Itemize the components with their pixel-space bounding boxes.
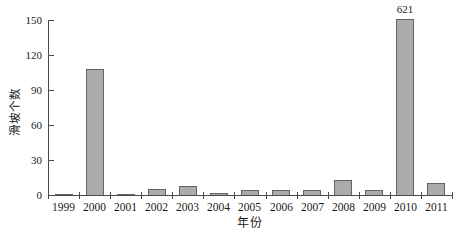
x-tick-mark xyxy=(141,192,142,199)
bar xyxy=(365,190,383,195)
y-tick-mark xyxy=(49,160,54,161)
x-tick-mark xyxy=(48,192,49,199)
x-tick-mark xyxy=(266,192,267,199)
y-tick-mark xyxy=(49,90,54,91)
bar xyxy=(427,183,445,195)
bar-value-label: 621 xyxy=(385,3,425,15)
x-tick-mark xyxy=(110,192,111,199)
x-tick-mark xyxy=(359,192,360,199)
x-tick-mark xyxy=(452,192,453,199)
y-tick-mark xyxy=(49,125,54,126)
y-tick-label: 150 xyxy=(2,13,42,27)
x-tick-mark xyxy=(234,192,235,199)
x-tick-mark xyxy=(203,192,204,199)
x-axis-title: 年份 xyxy=(200,213,300,231)
x-tick-mark xyxy=(172,192,173,199)
bar xyxy=(55,194,73,196)
x-tick-mark xyxy=(297,192,298,199)
bar xyxy=(86,69,104,195)
x-tick-mark xyxy=(79,192,80,199)
y-tick-label: 120 xyxy=(2,48,42,62)
bar xyxy=(179,186,197,195)
bar xyxy=(148,189,166,195)
x-tick-mark xyxy=(390,192,391,199)
bar-chart: 滑坡个数 年份 03060901201501999200020012002200… xyxy=(0,0,458,242)
y-tick-label: 90 xyxy=(2,83,42,97)
y-tick-label: 0 xyxy=(2,188,42,202)
x-tick-label: 2011 xyxy=(417,201,456,214)
bar xyxy=(241,190,259,195)
bar xyxy=(210,193,228,195)
y-tick-mark xyxy=(49,20,54,21)
x-tick-mark xyxy=(328,192,329,199)
bar xyxy=(272,190,290,195)
y-tick-mark xyxy=(49,55,54,56)
x-tick-mark xyxy=(421,192,422,199)
bar xyxy=(117,194,135,196)
y-tick-label: 30 xyxy=(2,153,42,167)
y-tick-label: 60 xyxy=(2,118,42,132)
bar xyxy=(303,190,321,195)
bar xyxy=(334,180,352,195)
bar xyxy=(396,19,414,195)
y-axis-line xyxy=(48,20,49,196)
x-axis-line xyxy=(48,195,453,196)
